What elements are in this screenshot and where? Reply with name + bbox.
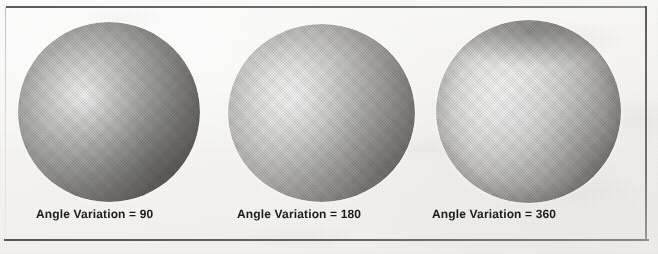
figure-container: Angle Variation = 90 Angle Variation = 1… [0,0,658,254]
sphere-shading-90 [18,22,200,202]
sphere-shading-360 [436,20,621,203]
sphere-panel-180: Angle Variation = 180 [220,0,435,254]
shaded-sphere-180 [228,24,415,202]
caption-angle-variation-180: Angle Variation = 180 [237,207,361,221]
sphere-panel-360: Angle Variation = 360 [435,0,658,254]
caption-angle-variation-90: Angle Variation = 90 [36,207,153,221]
caption-angle-variation-360: Angle Variation = 360 [432,207,556,221]
shaded-sphere-90 [18,22,200,202]
shaded-sphere-360 [436,20,621,203]
sphere-panel-90: Angle Variation = 90 [0,0,220,254]
sphere-shading-180 [228,24,415,202]
